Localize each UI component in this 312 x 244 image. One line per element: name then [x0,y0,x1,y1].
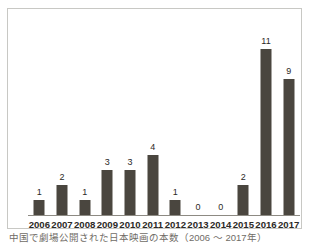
x-axis-label: 2007 [51,218,74,231]
bar [238,185,249,215]
chart-frame: 1213341002119 20062007200820092010201120… [7,8,302,229]
bar-value-label: 3 [105,158,110,167]
bar [283,79,294,215]
bar-slot: 11 [255,19,278,215]
x-axis-label: 2016 [255,218,278,231]
bar-value-label: 1 [82,188,87,197]
bar [170,200,181,215]
x-axis-tick-labels: 2006200720082009201020112012201320142015… [28,218,300,232]
x-axis-label: 2014 [209,218,232,231]
bar-value-label: 11 [261,37,270,46]
x-axis-label: 2006 [28,218,51,231]
bar-value-label: 3 [127,158,132,167]
bar-slot: 0 [209,19,232,215]
bar-slot: 3 [96,19,119,215]
bar-slot: 1 [164,19,187,215]
figure-caption: 中国で劇場公開された日本映画の本数（2006 ～ 2017年） [9,232,309,244]
bar [124,170,135,215]
bar-value-label: 0 [218,203,223,212]
bar [147,155,158,215]
x-axis-label: 2017 [277,218,300,231]
bar-slot: 1 [73,19,96,215]
bar-value-label: 1 [173,188,178,197]
bar-value-label: 1 [37,188,42,197]
bar-value-label: 2 [59,173,64,182]
x-axis-label: 2013 [187,218,210,231]
bar-value-label: 9 [286,67,291,76]
x-axis-label: 2012 [164,218,187,231]
x-axis-label: 2008 [73,218,96,231]
bar [34,200,45,215]
bar-slot: 4 [141,19,164,215]
bar-slot: 2 [51,19,74,215]
x-axis-line [28,215,300,216]
bar-value-label: 2 [241,173,246,182]
bar-slot: 3 [119,19,142,215]
figure: 1213341002119 20062007200820092010201120… [0,0,312,244]
bar-slot: 1 [28,19,51,215]
x-axis-label: 2015 [232,218,255,231]
bar-slot: 0 [187,19,210,215]
bar-value-label: 0 [195,203,200,212]
bar-value-label: 4 [150,143,155,152]
bar-slot: 9 [277,19,300,215]
x-axis-label: 2009 [96,218,119,231]
x-axis-label: 2010 [119,218,142,231]
bar [102,170,113,215]
plot-area: 1213341002119 [28,19,300,215]
bar [56,185,67,215]
x-axis-label: 2011 [141,218,164,231]
bar-slot: 2 [232,19,255,215]
bar [79,200,90,215]
bar [260,49,271,215]
